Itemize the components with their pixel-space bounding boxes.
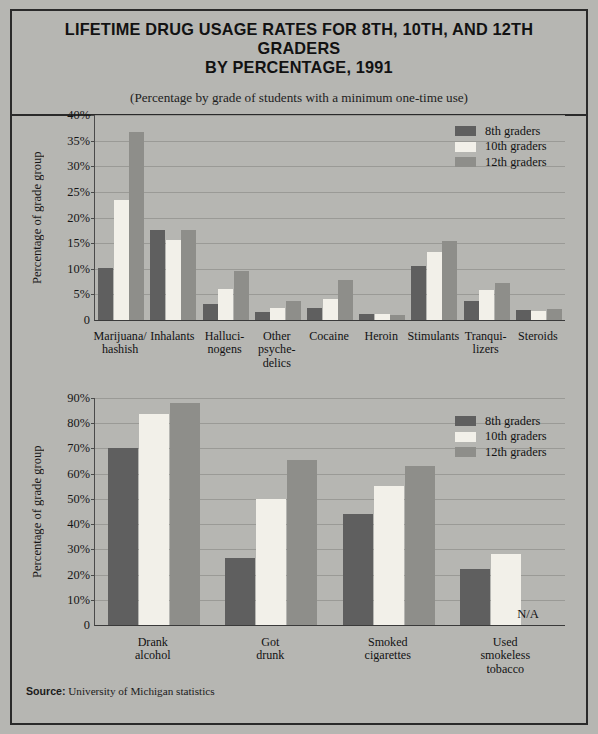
bar: [129, 132, 144, 320]
bar: [323, 299, 338, 320]
gridline: [95, 115, 565, 116]
bar: [286, 301, 301, 320]
bar: [256, 499, 286, 625]
na-annotation: N/A: [517, 607, 539, 622]
y-axis-tick-label: 30%: [67, 542, 90, 557]
infographic-page: LIFETIME DRUG USAGE RATES FOR 8TH, 10TH,…: [0, 0, 598, 734]
y-axis-tick-mark: [91, 115, 95, 116]
y-axis-tick-mark: [91, 398, 95, 399]
legend-item-g8: 8th graders: [455, 124, 547, 138]
chart-frame: LIFETIME DRUG USAGE RATES FOR 8TH, 10TH,…: [10, 9, 588, 725]
y-axis-tick-label: 15%: [67, 236, 90, 251]
legend-swatch-g10: [455, 432, 476, 442]
y-axis-tick-label: 50%: [67, 491, 90, 506]
legend-swatch-g10: [455, 142, 476, 152]
bar: [307, 308, 322, 320]
bar: [234, 271, 249, 320]
y-axis-tick-label: 10%: [67, 261, 90, 276]
bar: [479, 290, 494, 320]
y-axis-tick-mark: [91, 192, 95, 193]
legend: 8th graders10th graders12th graders: [455, 124, 547, 171]
bar: [411, 266, 426, 320]
y-axis-tick-label: 20%: [67, 567, 90, 582]
y-axis-label: Percentage of grade group: [30, 115, 45, 320]
y-axis-tick-label: 60%: [67, 466, 90, 481]
y-axis-tick-mark: [91, 269, 95, 270]
legend-item-g10: 10th graders: [455, 430, 547, 444]
legend-swatch-g8: [455, 416, 476, 426]
y-axis-tick-label: 40%: [67, 517, 90, 532]
y-axis-tick-label: 30%: [67, 159, 90, 174]
legend-item-g12: 12th graders: [455, 155, 547, 169]
legend-label-g8: 8th graders: [485, 124, 540, 139]
header: LIFETIME DRUG USAGE RATES FOR 8TH, 10TH,…: [12, 11, 586, 116]
bar: [375, 314, 390, 320]
source-text: University of Michigan statistics: [68, 685, 214, 697]
y-axis-tick-label: 0: [84, 618, 90, 633]
y-axis-tick-label: 80%: [67, 416, 90, 431]
y-axis-tick-label: 10%: [67, 592, 90, 607]
bar: [343, 514, 373, 625]
chart-illicit-drugs: Percentage of grade group05%10%15%20%25%…: [12, 107, 586, 367]
y-axis-tick-label: 0: [84, 313, 90, 328]
bar: [218, 289, 233, 320]
y-axis-tick-mark: [91, 549, 95, 550]
y-axis-tick-mark: [91, 448, 95, 449]
bar: [270, 308, 285, 320]
bar: [98, 268, 113, 320]
bar: [255, 312, 270, 320]
y-axis-tick-label: 5%: [73, 287, 90, 302]
bar: [531, 311, 546, 320]
y-axis-label: Percentage of grade group: [30, 398, 45, 625]
y-axis-tick-mark: [91, 499, 95, 500]
bar: [495, 283, 510, 320]
bar: [139, 414, 169, 625]
y-axis-tick-mark: [91, 294, 95, 295]
y-axis-tick-mark: [91, 474, 95, 475]
bar: [390, 315, 405, 320]
bar: [460, 569, 490, 625]
legend-swatch-g12: [455, 157, 476, 167]
bar: [203, 304, 218, 320]
bar: [442, 241, 457, 320]
y-axis-tick-label: 20%: [67, 210, 90, 225]
y-axis-tick-mark: [91, 243, 95, 244]
bar: [287, 460, 317, 625]
legend-swatch-g8: [455, 126, 476, 136]
legend-swatch-g12: [455, 447, 476, 457]
bar: [150, 230, 165, 320]
legend-item-g8: 8th graders: [455, 414, 547, 428]
bar: [405, 466, 435, 625]
y-axis-tick-label: 25%: [67, 184, 90, 199]
legend-label-g10: 10th graders: [485, 139, 547, 154]
gridline: [95, 192, 565, 193]
bar: [338, 280, 353, 320]
legend-item-g12: 12th graders: [455, 445, 547, 459]
gridline: [95, 398, 565, 399]
source-note: Source: University of Michigan statistic…: [26, 685, 215, 697]
bar: [464, 301, 479, 320]
chart-alcohol-tobacco: Percentage of grade group010%20%30%40%50…: [12, 389, 586, 689]
bar: [516, 310, 531, 320]
legend-label-g8: 8th graders: [485, 414, 540, 429]
subtitle: (Percentage by grade of students with a …: [26, 90, 572, 106]
y-axis-tick-mark: [91, 218, 95, 219]
bar: [114, 200, 129, 320]
y-axis-tick-label: 70%: [67, 441, 90, 456]
y-axis-tick-label: 35%: [67, 133, 90, 148]
legend: 8th graders10th graders12th graders: [455, 414, 547, 461]
bar: [108, 448, 138, 625]
y-axis-tick-mark: [91, 575, 95, 576]
page-title: LIFETIME DRUG USAGE RATES FOR 8TH, 10TH,…: [26, 20, 572, 77]
bar: [170, 403, 200, 625]
bar: [427, 252, 442, 320]
y-axis-tick-label: 90%: [67, 391, 90, 406]
y-axis-tick-mark: [91, 141, 95, 142]
bar: [225, 558, 255, 625]
y-axis-tick-mark: [91, 524, 95, 525]
y-axis-tick-mark: [91, 600, 95, 601]
legend-label-g10: 10th graders: [485, 429, 547, 444]
bar: [181, 230, 196, 320]
source-label: Source:: [26, 685, 65, 697]
y-axis-tick-mark: [91, 423, 95, 424]
